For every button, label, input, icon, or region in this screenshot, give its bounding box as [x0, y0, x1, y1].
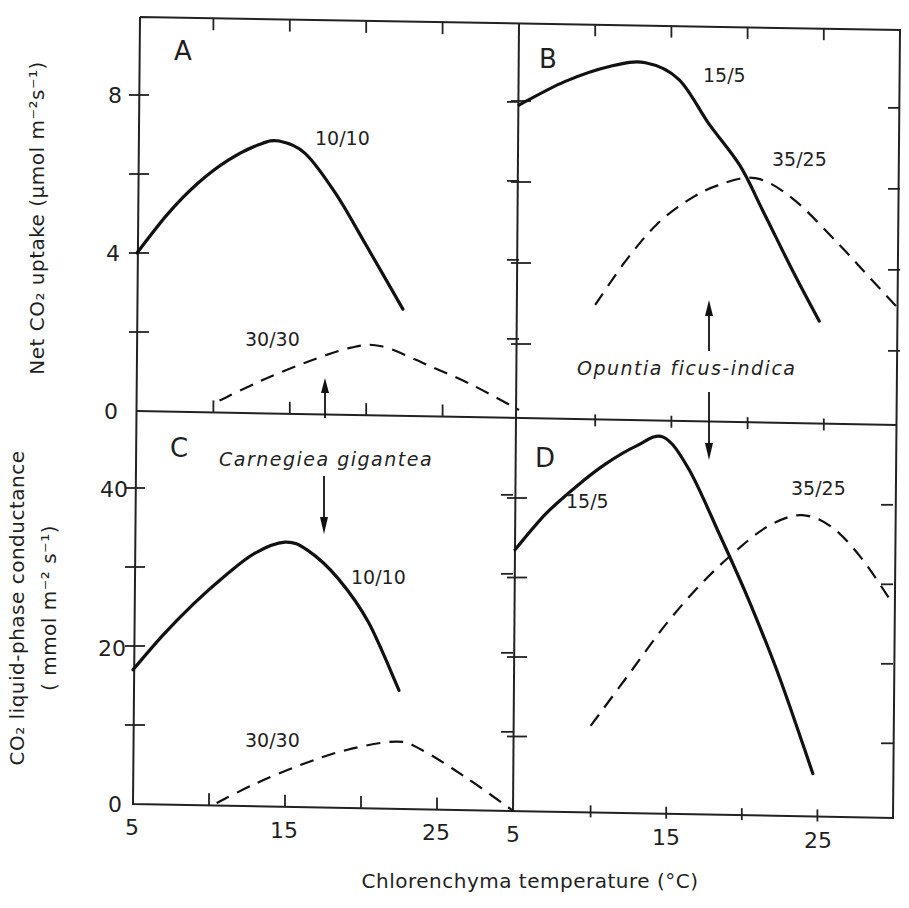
- curve-label-a-solid: 10/10: [315, 127, 370, 149]
- x-tick-label: 25: [422, 820, 450, 845]
- x-tick-label: 5: [125, 815, 139, 840]
- curve-label-b-dashed: 35/25: [772, 148, 827, 170]
- x-tick-labels: 5 15 25 5 15 25: [125, 815, 832, 853]
- figure-canvas: 0 4 8 0 20 40 5 15 25 5 15 25 Chlorenchy…: [0, 0, 909, 908]
- y-tick-labels-bottom: 0 20 40: [98, 477, 128, 817]
- x-tick-label: 25: [804, 828, 832, 853]
- axes-frame: [133, 17, 900, 818]
- curve-c-10-10: [133, 542, 399, 690]
- curve-label-d-dashed: 35/25: [791, 477, 846, 499]
- species-label-left: Carnegiea gigantea: [219, 448, 433, 470]
- curve-d-15-5: [515, 436, 813, 774]
- curve-label-b-solid: 15/5: [703, 64, 746, 86]
- y-tick-label: 4: [106, 241, 120, 266]
- curve-a-30-30: [220, 345, 520, 410]
- curve-b-15-5: [519, 62, 819, 321]
- y-tick-label: 8: [108, 83, 122, 108]
- panel-letter-d: D: [535, 443, 555, 473]
- curve-d-35-25: [591, 515, 893, 726]
- panel-letter-c: C: [170, 433, 188, 463]
- curve-c-30-30: [217, 742, 513, 811]
- y-tick-label: 40: [100, 477, 128, 502]
- x-tick-label: 15: [270, 818, 298, 843]
- y-axis-title-bottom: CO₂ liquid-phase conductance: [5, 450, 29, 765]
- y-tick-label: 0: [104, 399, 118, 424]
- y-tick-labels-top: 0 4 8: [104, 83, 122, 424]
- curve-label-d-solid: 15/5: [566, 490, 609, 512]
- curve-label-c-solid: 10/10: [351, 566, 406, 588]
- x-tick-label: 15: [652, 825, 680, 850]
- panel-letter-a: A: [174, 36, 192, 66]
- y-axis-title-top: Net CO₂ uptake (μmol m⁻²s⁻¹): [25, 61, 49, 375]
- species-label-right: Opuntia ficus-indica: [577, 357, 796, 379]
- curve-b-35-25: [595, 178, 900, 311]
- x-axis-title: Chlorenchyma temperature (°C): [362, 869, 699, 893]
- curve-label-c-dashed: 30/30: [245, 729, 300, 751]
- arrow-down-icon: [320, 476, 328, 534]
- panel-letter-b: B: [539, 44, 557, 74]
- y-tick-label: 20: [98, 636, 126, 661]
- x-tick-label: 5: [506, 822, 520, 847]
- arrow-up-icon: [321, 378, 329, 418]
- axis-ticks: [125, 18, 900, 821]
- curve-label-a-dashed: 30/30: [245, 328, 300, 350]
- arrow-up-icon: [705, 300, 713, 351]
- arrow-down-icon: [705, 392, 713, 460]
- y-axis-title-bottom-units: ( mmol m⁻² s⁻¹): [37, 525, 61, 691]
- y-tick-label: 0: [108, 792, 122, 817]
- curve-a-10-10: [137, 141, 403, 310]
